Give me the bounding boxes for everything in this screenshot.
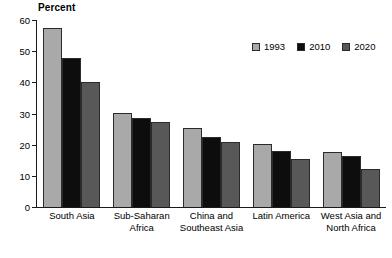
x-axis-category-labels: South AsiaSub-SaharanAfricaChina andSout… xyxy=(37,210,386,233)
bar-group xyxy=(107,20,177,207)
bar-2010 xyxy=(62,58,81,207)
bar-2020 xyxy=(361,169,380,207)
category-label-line: West Asia and xyxy=(316,210,386,222)
category-label-line: North Africa xyxy=(316,222,386,234)
category-label-line: Africa xyxy=(107,222,177,234)
y-tick xyxy=(32,51,36,52)
category-label-line: Sub-Saharan xyxy=(107,210,177,222)
bar-2010 xyxy=(342,156,361,207)
bar-2010 xyxy=(202,137,221,207)
bar-1993 xyxy=(43,28,62,207)
category-label-line: South Asia xyxy=(37,210,107,222)
y-tick xyxy=(32,145,36,146)
y-tick-label: 30 xyxy=(19,110,30,119)
y-tick xyxy=(32,207,36,208)
bar-group xyxy=(246,20,316,207)
y-tick-label: 40 xyxy=(19,78,30,87)
y-tick xyxy=(32,114,36,115)
bar-group xyxy=(37,20,107,207)
plot-area: 0102030405060 xyxy=(36,20,386,207)
bar-2010 xyxy=(132,118,151,207)
bar-2020 xyxy=(221,142,240,207)
bar-1993 xyxy=(113,113,132,207)
bar-2020 xyxy=(291,159,310,207)
bar-groups xyxy=(37,20,386,207)
bar-1993 xyxy=(183,128,202,207)
category-label-line: Latin America xyxy=(246,210,316,222)
category-label: Sub-SaharanAfrica xyxy=(107,210,177,233)
bar-1993 xyxy=(323,152,342,207)
y-tick xyxy=(32,82,36,83)
x-axis-line xyxy=(36,207,386,208)
y-tick-label: 20 xyxy=(19,141,30,150)
bar-group xyxy=(177,20,247,207)
y-tick xyxy=(32,176,36,177)
category-label: China andSoutheast Asia xyxy=(177,210,247,233)
bar-chart: Percent 199320102020 0102030405060 South… xyxy=(0,0,392,258)
bar-2010 xyxy=(272,151,291,207)
y-tick-label: 50 xyxy=(19,47,30,56)
bar-group xyxy=(316,20,386,207)
category-label: Latin America xyxy=(246,210,316,233)
category-label-line: China and xyxy=(177,210,247,222)
bar-2020 xyxy=(81,82,100,207)
y-tick-label: 10 xyxy=(19,172,30,181)
category-label: South Asia xyxy=(37,210,107,233)
bar-1993 xyxy=(253,144,272,207)
y-tick xyxy=(32,20,36,21)
category-label-line: Southeast Asia xyxy=(177,222,247,234)
y-axis-title: Percent xyxy=(38,2,75,13)
category-label: West Asia andNorth Africa xyxy=(316,210,386,233)
bar-2020 xyxy=(151,122,170,207)
y-tick-label: 60 xyxy=(19,16,30,25)
y-tick-label: 0 xyxy=(25,203,30,212)
